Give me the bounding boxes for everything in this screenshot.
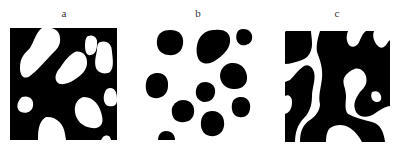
morphology-figure [0,0,398,149]
panel-c-image [285,31,390,142]
panel-a-image [10,27,117,140]
panel-b-image [146,29,252,140]
